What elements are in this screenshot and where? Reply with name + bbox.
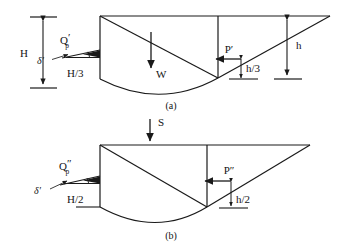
label-weight-W: W	[156, 68, 167, 80]
label-wall-arm-H3: H/3	[67, 67, 84, 79]
label-friction-angle-delta-a: δ′	[37, 55, 45, 66]
label-surcharge-S: S	[158, 116, 164, 128]
label-pressure-force-P-prime: P′	[225, 43, 234, 55]
label-pressure-arm-h3: h/3	[246, 62, 261, 74]
figure-container: H Q′p δ′ H/3 W	[0, 0, 342, 248]
label-pressure-arm-h2: h/2	[236, 193, 250, 205]
label-wall-height-H: H	[20, 47, 28, 59]
label-pressure-force-P-double-prime: P″	[224, 164, 235, 176]
engineering-diagram: H Q′p δ′ H/3 W	[0, 0, 342, 248]
label-friction-angle-delta-b: δ′	[34, 185, 42, 196]
label-wall-arm-H2: H/2	[67, 193, 84, 205]
label-soil-depth-h: h	[296, 39, 302, 51]
caption-panel-b: (b)	[165, 230, 177, 242]
caption-panel-a: (a)	[165, 100, 176, 112]
